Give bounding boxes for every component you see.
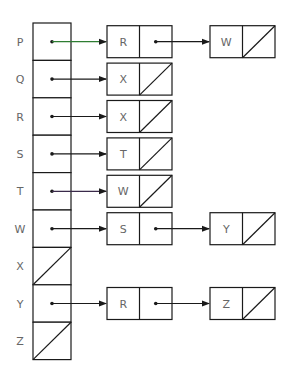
vertex-row-p: PRW	[17, 23, 275, 60]
list-node: Y	[210, 213, 275, 245]
vertex-row-z: Z	[16, 322, 71, 359]
vertex-label: S	[17, 148, 24, 161]
vertex-row-y: YRZ	[16, 285, 275, 322]
list-node: T	[107, 138, 172, 170]
vertex-label: P	[17, 36, 24, 49]
list-node: Z	[210, 288, 275, 320]
list-node: R	[107, 26, 209, 58]
list-node: W	[107, 175, 172, 207]
list-node: W	[210, 26, 275, 58]
vertex-row-q: QX	[16, 60, 172, 97]
vertex-label: W	[15, 223, 26, 236]
vertex-row-w: WSY	[15, 210, 275, 247]
node-value: W	[118, 185, 129, 198]
node-value: S	[120, 223, 127, 236]
vertex-label: R	[16, 111, 24, 124]
vertex-row-t: TW	[16, 173, 172, 210]
vertex-label: T	[16, 185, 24, 198]
vertex-row-x: X	[16, 247, 71, 284]
node-value: Y	[222, 223, 230, 236]
adjacency-list-diagram: PRWQXRXSTTWWSYXYRZZ	[0, 0, 292, 374]
node-value: R	[119, 298, 127, 311]
vertex-label: Q	[16, 73, 25, 86]
vertex-row-r: RX	[16, 98, 172, 135]
vertex-label: Y	[16, 298, 24, 311]
vertex-label: X	[16, 260, 24, 273]
list-node: X	[107, 101, 172, 133]
node-value: X	[119, 73, 127, 86]
node-value: X	[119, 111, 127, 124]
node-value: T	[119, 148, 127, 161]
node-value: Z	[222, 298, 230, 311]
list-node: X	[107, 63, 172, 95]
node-value: W	[221, 36, 232, 49]
list-node: S	[107, 213, 209, 245]
node-value: R	[119, 36, 127, 49]
vertex-row-s: ST	[17, 135, 172, 172]
list-node: R	[107, 288, 209, 320]
vertex-label: Z	[16, 335, 24, 348]
